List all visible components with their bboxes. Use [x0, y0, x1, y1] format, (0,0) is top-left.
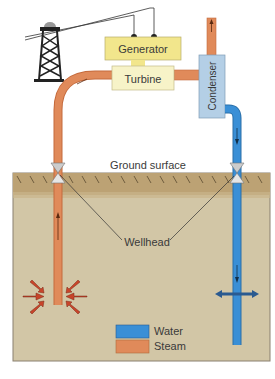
- legend-label-steam: Steam: [154, 340, 186, 352]
- condenser: Condenser: [199, 55, 225, 118]
- wellhead-label: Wellhead: [124, 236, 170, 248]
- legend-label-water: Water: [154, 325, 183, 337]
- legend-swatch-steam: [116, 340, 149, 353]
- generator-label: Generator: [118, 43, 168, 55]
- geothermal-power-plant-diagram: Generator Turbine Condenser: [0, 0, 275, 379]
- turbine: Turbine: [112, 66, 174, 90]
- condenser-label: Condenser: [207, 61, 218, 111]
- turbine-label: Turbine: [125, 73, 162, 85]
- ground-surface-label: Ground surface: [110, 159, 186, 171]
- generator: Generator: [105, 37, 181, 66]
- legend-swatch-water: [116, 325, 149, 338]
